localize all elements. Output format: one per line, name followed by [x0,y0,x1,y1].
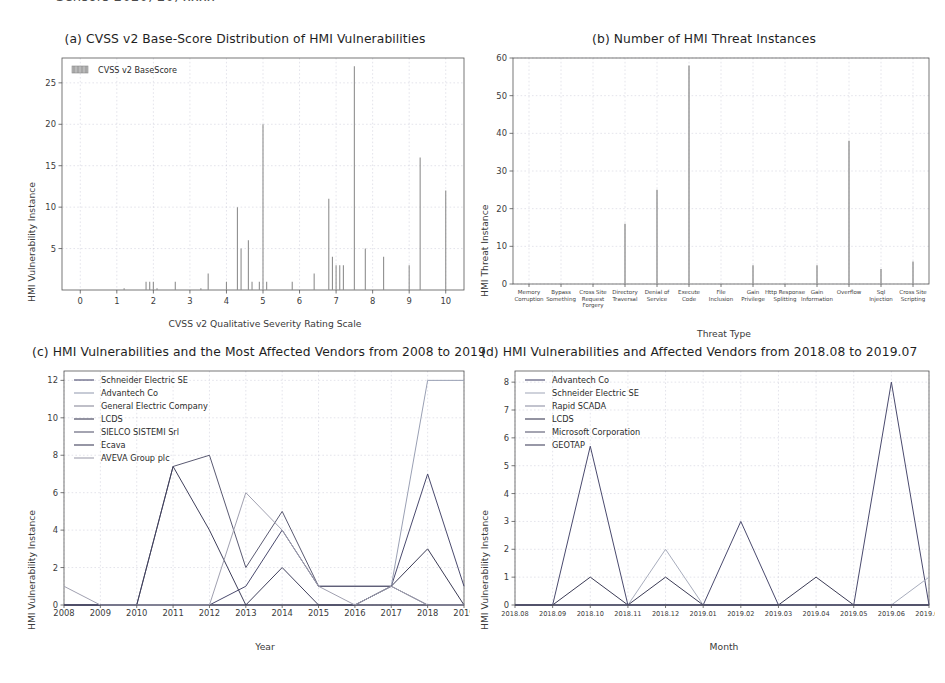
cropped-header-text: Sensors 2020, 20, xxxx [56,0,215,4]
svg-text:40: 40 [496,128,507,138]
svg-text:Rapid SCADA: Rapid SCADA [552,401,606,411]
svg-text:Information: Information [801,296,833,302]
svg-text:Execute: Execute [678,289,701,295]
svg-text:Overflow: Overflow [837,289,862,295]
svg-text:10: 10 [496,241,507,251]
svg-text:LCDS: LCDS [552,414,574,424]
svg-text:2019.02: 2019.02 [727,610,754,618]
svg-text:0: 0 [502,279,507,289]
svg-text:2019: 2019 [453,608,470,618]
svg-text:20: 20 [496,204,507,214]
panel-a-ylabel: HMI Vulnerability Instance [26,182,37,302]
svg-text:Service: Service [647,296,668,302]
panel-b-plot: HMI Threat Instance 0102030405060MemoryC… [473,52,935,339]
panel-d-vendors-month: (d) HMI Vulnerabilities and Affected Ven… [473,345,935,675]
svg-text:Gain: Gain [747,289,760,295]
svg-text:2010: 2010 [126,608,147,618]
svg-text:2019.07: 2019.07 [915,610,935,618]
panel-a-title: (a) CVSS v2 Base-Score Distribution of H… [20,32,470,46]
svg-text:2018.08: 2018.08 [501,610,528,618]
svg-text:2: 2 [151,296,156,306]
panel-b-xlabel: Threat Type [513,328,935,339]
svg-text:2019.03: 2019.03 [765,610,792,618]
svg-text:60: 60 [496,53,507,63]
svg-text:12: 12 [47,375,58,385]
svg-text:2019.04: 2019.04 [802,610,829,618]
svg-text:2015: 2015 [308,608,329,618]
svg-text:50: 50 [496,91,507,101]
svg-text:CVSS v2 BaseScore: CVSS v2 BaseScore [98,65,177,75]
svg-text:2012: 2012 [199,608,220,618]
svg-text:2016: 2016 [344,608,365,618]
svg-text:Gain: Gain [811,289,824,295]
panel-c-vendors-year: (c) HMI Vulnerabilities and the Most Aff… [20,345,470,675]
svg-text:7: 7 [333,296,338,306]
svg-text:2009: 2009 [90,608,111,618]
svg-text:4: 4 [504,489,509,499]
panel-b-title: (b) Number of HMI Threat Instances [473,32,935,46]
panel-d-xlabel: Month [513,641,935,652]
svg-text:LCDS: LCDS [101,414,123,424]
panel-a-xlabel: CVSS v2 Qualitative Severity Rating Scal… [60,318,470,329]
svg-text:2018.11: 2018.11 [614,610,641,618]
cropped-header-strip: Sensors 2020, 20, xxxx [0,0,945,14]
svg-text:Advantech Co: Advantech Co [552,375,609,385]
svg-text:8: 8 [504,377,509,387]
panel-d-title: (d) HMI Vulnerabilities and Affected Ven… [473,345,935,359]
panel-c-svg: 0246810122008200920102011201220132014201… [20,365,470,640]
svg-text:7: 7 [504,405,509,415]
svg-text:Inclusion: Inclusion [709,296,734,302]
svg-text:Denial of: Denial of [645,289,671,295]
svg-text:2018.10: 2018.10 [577,610,604,618]
svg-text:2019.06: 2019.06 [878,610,905,618]
svg-text:10: 10 [440,296,451,306]
svg-text:Injection: Injection [869,296,893,303]
svg-text:30: 30 [496,166,507,176]
svg-text:Privilege: Privilege [741,296,765,303]
svg-text:6: 6 [504,433,509,443]
svg-text:0: 0 [504,600,509,610]
svg-text:Cross Site: Cross Site [899,289,927,295]
svg-text:Code: Code [682,296,697,302]
svg-text:2011: 2011 [162,608,183,618]
panel-a-cvss-distribution: (a) CVSS v2 Base-Score Distribution of H… [20,32,470,342]
panel-d-ylabel: HMI Vulnerability Instance [479,510,490,630]
svg-text:2018.12: 2018.12 [652,610,679,618]
svg-text:8: 8 [370,296,375,306]
svg-text:5: 5 [260,296,265,306]
svg-text:5: 5 [504,461,509,471]
svg-text:2018: 2018 [417,608,438,618]
svg-text:10: 10 [47,413,58,423]
svg-text:Microsoft Corporation: Microsoft Corporation [552,427,640,437]
svg-text:GEOTAP: GEOTAP [552,440,585,450]
svg-text:2014: 2014 [272,608,293,618]
svg-text:Something: Something [546,296,576,303]
panel-a-plot: HMI Vulnerability Instance 0123456789105… [20,52,470,329]
svg-text:2: 2 [53,563,58,573]
svg-text:1: 1 [114,296,119,306]
svg-text:2008: 2008 [53,608,74,618]
svg-text:2: 2 [504,544,509,554]
svg-text:15: 15 [45,161,56,171]
svg-text:AVEVA Group plc: AVEVA Group plc [101,453,170,463]
panel-b-ylabel: HMI Threat Instance [479,205,490,297]
svg-text:4: 4 [53,525,58,535]
svg-text:Schneider Electric SE: Schneider Electric SE [552,388,639,398]
panel-c-title: (c) HMI Vulnerabilities and the Most Aff… [20,345,470,359]
svg-text:3: 3 [504,516,509,526]
svg-text:20: 20 [45,119,56,129]
svg-text:2019.01: 2019.01 [690,610,717,618]
svg-text:2017: 2017 [381,608,402,618]
panel-c-xlabel: Year [60,641,470,652]
svg-text:2019.05: 2019.05 [840,610,867,618]
panel-c-ylabel: HMI Vulnerability Instance [26,510,37,630]
svg-text:Cross Site: Cross Site [579,289,607,295]
svg-text:9: 9 [407,296,412,306]
panel-d-svg: 0123456782018.082018.092018.102018.11201… [473,365,935,640]
svg-text:0: 0 [78,296,83,306]
svg-text:10: 10 [45,202,56,212]
figure-page: Sensors 2020, 20, xxxx (a) CVSS v2 Base-… [0,0,945,683]
svg-text:6: 6 [297,296,302,306]
svg-text:3: 3 [187,296,192,306]
panel-a-svg: 012345678910510152025CVSS v2 BaseScore [20,52,470,317]
